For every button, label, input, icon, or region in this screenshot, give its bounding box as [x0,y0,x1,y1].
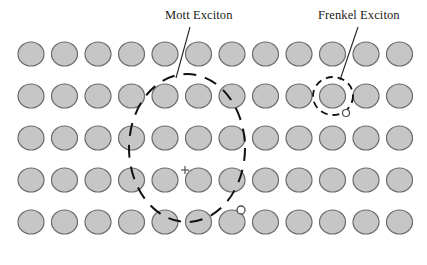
lattice-atom [253,126,279,150]
lattice-atom [85,42,111,66]
lattice-atom [186,168,212,192]
lattice-atom [152,210,178,234]
lattice-atom [186,42,212,66]
exciton-diagram: Mott Exciton Frenkel Exciton [0,0,427,265]
lattice-canvas [0,0,427,265]
lattice-atom [85,126,111,150]
lattice-atom [286,126,312,150]
mott-exciton-electron [237,206,245,214]
lattice-atom [353,42,379,66]
lattice-atom [387,42,413,66]
lattice-atom [52,42,78,66]
lattice-atom [219,42,245,66]
lattice-atom [18,210,44,234]
lattice-atom [387,126,413,150]
lattice-atom [152,42,178,66]
lattice-atom [52,84,78,108]
lattice-atom [219,84,245,108]
lattice-atom [320,210,346,234]
lattice-atom [387,168,413,192]
lattice-atom [152,84,178,108]
lattice-atom [320,84,346,108]
atom-lattice-layer [18,42,413,234]
lattice-atom [119,42,145,66]
lattice-atom [353,84,379,108]
lattice-atom [18,168,44,192]
lattice-atom [320,126,346,150]
lattice-atom [286,168,312,192]
lattice-atom [353,168,379,192]
lattice-atom [253,168,279,192]
lattice-atom [52,168,78,192]
mott-exciton-label: Mott Exciton [165,8,233,23]
lattice-atom [186,126,212,150]
lattice-atom [253,84,279,108]
lattice-atom [52,210,78,234]
lattice-atom [85,210,111,234]
lattice-atom [387,84,413,108]
lattice-atom [85,84,111,108]
lattice-atom [219,126,245,150]
lattice-atom [320,168,346,192]
lattice-atom [85,168,111,192]
lattice-atom [286,210,312,234]
lattice-atom [253,42,279,66]
lattice-atom [18,42,44,66]
lattice-atom [152,126,178,150]
frenkel-exciton-label: Frenkel Exciton [318,8,400,23]
lattice-atom [387,210,413,234]
lattice-atom [286,84,312,108]
lattice-atom [152,168,178,192]
lattice-atom [353,126,379,150]
lattice-atom [353,210,379,234]
lattice-atom [119,210,145,234]
lattice-atom [186,210,212,234]
lattice-atom [18,126,44,150]
lattice-atom [52,126,78,150]
frenkel-exciton-electron [343,110,350,117]
lattice-atom [18,84,44,108]
lattice-atom [186,84,212,108]
lattice-atom [286,42,312,66]
lattice-atom [320,42,346,66]
lattice-atom [253,210,279,234]
